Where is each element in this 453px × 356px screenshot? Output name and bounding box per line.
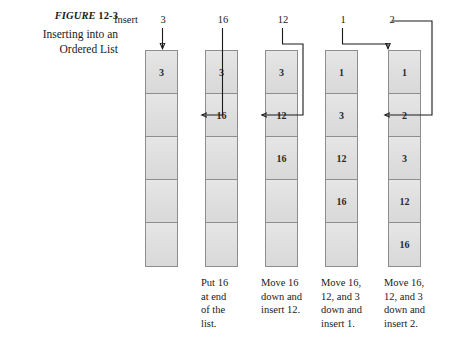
list-cell: [206, 137, 237, 180]
list-column-1: 3: [145, 50, 178, 267]
insert-value-5: 2: [381, 14, 403, 26]
insert-label: Insert: [114, 14, 138, 26]
list-cell: 3: [326, 94, 357, 137]
insert-value-2: 16: [212, 14, 234, 26]
list-cell: 12: [326, 137, 357, 180]
column-caption-4: Move 16, 12, and 3 down and insert 1.: [321, 276, 381, 330]
caption-line: insert 2.: [384, 317, 444, 331]
list-column-5: 1 2 3 12 16: [388, 50, 421, 267]
list-cell: 2: [389, 94, 420, 137]
list-cell: [146, 94, 177, 137]
list-cell: [326, 223, 357, 266]
list-cell: 3: [146, 51, 177, 94]
figure-title-line1: Inserting into an: [0, 27, 118, 42]
figure-title: Inserting into an Ordered List: [0, 27, 118, 56]
list-cell: [146, 137, 177, 180]
column-caption-5: Move 16, 12, and 3 down and insert 2.: [384, 276, 444, 330]
list-cell: [206, 223, 237, 266]
figure-label: FIGURE 12-3: [0, 9, 118, 22]
caption-line: insert 1.: [321, 317, 381, 331]
caption-line: 12, and 3: [384, 290, 444, 304]
caption-line: of the: [201, 303, 261, 317]
list-cell: 16: [326, 180, 357, 223]
list-cell: [206, 180, 237, 223]
list-cell: 16: [206, 94, 237, 137]
insert-value-1: 3: [152, 14, 174, 26]
figure-container: FIGURE 12-3 Inserting into an Ordered Li…: [0, 0, 453, 356]
list-cell: 1: [389, 51, 420, 94]
arrow-insert-1: [343, 28, 389, 49]
column-caption-2: Put 16 at end of the list.: [201, 276, 261, 330]
list-cell: 1: [326, 51, 357, 94]
figure-label-word: FIGURE: [55, 10, 96, 21]
list-cell: [266, 180, 297, 223]
caption-line: down and: [261, 290, 321, 304]
caption-line: Move 16,: [321, 276, 381, 290]
list-cell: 3: [266, 51, 297, 94]
caption-line: list.: [201, 317, 261, 331]
list-column-4: 1 3 12 16: [325, 50, 358, 267]
list-cell: 3: [206, 51, 237, 94]
caption-line: at end: [201, 290, 261, 304]
list-cell: [146, 223, 177, 266]
list-cell: 16: [266, 137, 297, 180]
list-cell: 12: [389, 180, 420, 223]
insert-value-3: 12: [272, 14, 294, 26]
caption-line: Put 16: [201, 276, 261, 290]
insert-value-4: 1: [332, 14, 354, 26]
caption-line: Move 16,: [384, 276, 444, 290]
column-caption-3: Move 16 down and insert 12.: [261, 276, 321, 317]
list-cell: [266, 223, 297, 266]
caption-line: insert 12.: [261, 303, 321, 317]
caption-line: down and: [321, 303, 381, 317]
list-column-3: 3 12 16: [265, 50, 298, 267]
list-cell: [146, 180, 177, 223]
caption-line: down and: [384, 303, 444, 317]
figure-title-line2: Ordered List: [0, 42, 118, 57]
list-cell: 16: [389, 223, 420, 266]
list-cell: 3: [389, 137, 420, 180]
caption-line: Move 16: [261, 276, 321, 290]
list-cell: 12: [266, 94, 297, 137]
caption-line: 12, and 3: [321, 290, 381, 304]
list-column-2: 3 16: [205, 50, 238, 267]
